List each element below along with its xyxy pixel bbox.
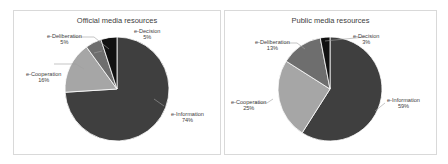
label-e-deliberation: e-Deliberation13% xyxy=(255,39,290,52)
chart-public-media: Public media resources e-Deliberation13%… xyxy=(224,10,437,155)
label-e-cooperation: e-Cooperation16% xyxy=(26,71,61,84)
label-e-information: e-Information74% xyxy=(171,111,204,124)
label-e-information: e-Information59% xyxy=(387,97,420,110)
pie-public xyxy=(225,11,438,156)
label-e-decision: e-Decision3% xyxy=(353,33,379,46)
label-e-deliberation: e-Deliberation5% xyxy=(47,33,82,46)
label-e-cooperation: e-Cooperation25% xyxy=(231,99,266,112)
label-e-decision: e-Decision5% xyxy=(134,28,160,41)
chart-official-media: Official media resources e-Deliberation5… xyxy=(13,10,221,155)
